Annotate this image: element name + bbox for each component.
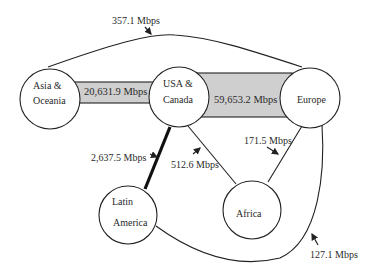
edge-asia-usa: 20,631.9 Mbps	[72, 82, 154, 103]
node-label: Oceania	[33, 95, 66, 106]
edge-label-usa-europe: 59,653.2 Mbps	[214, 94, 277, 105]
edge-usa-europe: 59,653.2 Mbps	[196, 73, 292, 117]
edge-asia-europe: 357.1 Mbps	[48, 15, 302, 67]
node-label: Europe	[297, 94, 326, 105]
node-label: Asia &	[33, 80, 62, 91]
edge-label-usa-latam: 2,637.5 Mbps	[91, 152, 146, 163]
node-label: America	[113, 217, 148, 228]
arrow-icon	[267, 147, 278, 154]
edge-label-asia-usa: 20,631.9 Mbps	[84, 86, 147, 97]
node-label: Latin	[112, 196, 133, 207]
node-europe: Europe	[280, 68, 340, 128]
edge-label-europe-africa: 171.5 Mbps	[244, 135, 292, 146]
arrow-icon	[145, 27, 151, 34]
arrow-icon	[193, 148, 200, 154]
node-usa-canada: USA & Canada	[149, 67, 209, 127]
edge-label-usa-africa: 512.6 Mbps	[171, 159, 219, 170]
edge-usa-latam: 2,637.5 Mbps	[91, 127, 170, 189]
edge-usa-africa: 512.6 Mbps	[171, 126, 236, 184]
arrow-icon	[312, 234, 318, 245]
node-label: USA &	[163, 78, 193, 89]
node-africa: Africa	[223, 181, 281, 239]
arrow-icon	[150, 154, 157, 157]
node-latin-america: Latin America	[99, 186, 157, 244]
edge-europe-africa: 171.5 Mbps	[244, 126, 302, 182]
node-label: Canada	[163, 94, 194, 105]
network-diagram: 357.1 Mbps 20,631.9 Mbps 59,653.2 Mbps 2…	[0, 0, 374, 274]
edge-label-asia-europe: 357.1 Mbps	[112, 15, 160, 26]
node-asia-oceania: Asia & Oceania	[20, 69, 80, 129]
edge-label-europe-latam: 127.1 Mbps	[310, 249, 358, 260]
node-label: Africa	[236, 208, 262, 219]
